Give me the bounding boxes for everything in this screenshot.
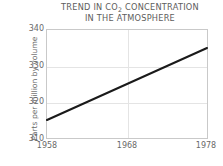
y-axis-title: Parts per million by volume: [30, 29, 39, 149]
chart-title-text-prefix: TREND IN CO: [61, 2, 118, 12]
y-tick-label-330: 330: [22, 61, 44, 70]
chart-title-text-suffix: CONCENTRATION: [122, 2, 199, 12]
chart-title-subscript: 2: [118, 6, 122, 13]
chart-title-line-2: IN THE ATMOSPHERE: [40, 13, 220, 24]
x-tick-label-1978: 1978: [186, 141, 223, 151]
plot-area: [46, 29, 208, 139]
x-tick-label-1958: 1958: [27, 141, 67, 151]
y-tick-label-320: 320: [22, 97, 44, 106]
x-axis: 1958 1968 1978: [46, 141, 208, 155]
y-axis: Parts per million by volume 340 330 320 …: [20, 29, 44, 139]
chart-title-line-1: TREND IN CO2 CONCENTRATION: [40, 2, 220, 13]
chart-title: TREND IN CO2 CONCENTRATION IN THE ATMOSP…: [40, 2, 220, 24]
series-line-co2: [47, 48, 207, 120]
y-tick-label-340: 340: [22, 24, 44, 33]
chart-container: TREND IN CO2 CONCENTRATION IN THE ATMOSP…: [0, 0, 223, 166]
data-line-svg: [47, 30, 207, 138]
x-tick-label-1968: 1968: [107, 141, 147, 151]
